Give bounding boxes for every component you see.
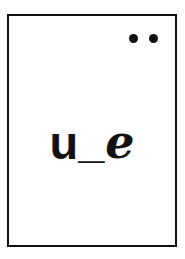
dot-indicator-1 [129, 34, 138, 43]
phonics-flashcard: u_e [0, 0, 185, 259]
corner-dot-pair [129, 34, 158, 43]
card-frame-border: u_e [7, 14, 177, 247]
grapheme-letter-first: u [49, 119, 78, 166]
grapheme-separator-underscore: _ [78, 117, 104, 164]
dot-indicator-2 [149, 34, 158, 43]
grapheme-letter-last: e [105, 119, 134, 165]
grapheme-text: u_e [9, 112, 175, 172]
